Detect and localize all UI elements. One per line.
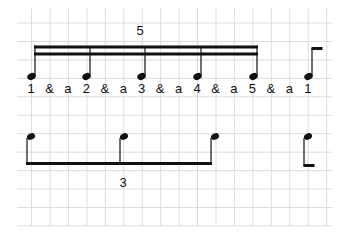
count-syllable: a [230,82,237,95]
pickup-note-line1 [303,47,322,81]
count-syllable: a [64,82,71,95]
count-syllable: 5 [249,82,256,95]
rhythm-worksheet [0,0,349,239]
count-syllable: 1 [304,82,311,95]
trailing-note-line2 [303,132,315,167]
count-syllable: a [120,82,127,95]
pickup-beam-stub [312,47,323,50]
count-syllable: 4 [193,82,200,95]
count-syllable: & [211,82,220,95]
tuplet-number-5: 5 [136,24,143,37]
count-syllable: 1 [27,82,34,95]
count-syllable: & [45,82,54,95]
count-syllable: 2 [83,82,90,95]
count-syllable: a [175,82,182,95]
secondary-beam [34,53,258,56]
count-syllable: 3 [138,82,145,95]
count-syllable: & [100,82,109,95]
trailing-beam-stub [304,164,315,167]
tuplet-number-3: 3 [119,176,126,189]
count-syllable: & [156,82,165,95]
count-syllable: & [267,82,276,95]
graph-paper-grid [17,8,332,226]
triplet-group [26,132,220,165]
primary-beam [34,46,258,49]
count-syllable: a [286,82,293,95]
triplet-beam [26,162,212,165]
